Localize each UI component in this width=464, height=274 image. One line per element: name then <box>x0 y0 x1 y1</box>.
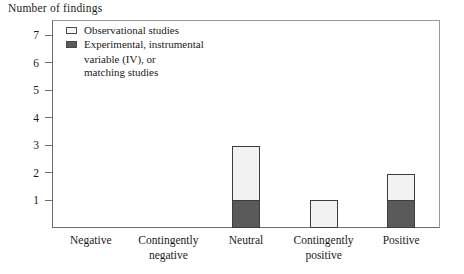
y-tick-mark <box>45 200 52 201</box>
bar-segment <box>387 200 415 228</box>
y-tick-label: 7 <box>0 26 39 44</box>
bar-segment <box>232 146 260 201</box>
bar-stack[interactable] <box>387 175 415 228</box>
bar-slot <box>285 20 363 228</box>
y-tick-mark <box>45 35 52 36</box>
bar-group <box>52 20 440 228</box>
bar-slot <box>362 20 440 228</box>
bar-segment <box>232 200 260 228</box>
x-axis-label: Positive <box>349 233 453 248</box>
bar-slot <box>207 20 285 228</box>
bar-slot <box>52 20 130 228</box>
bar-stack[interactable] <box>232 148 260 228</box>
y-axis-title: Number of findings <box>8 2 102 14</box>
y-tick-label: 4 <box>0 109 39 127</box>
bar-stack[interactable] <box>310 202 338 228</box>
chart-figure: Number of findings 1234567 Observational… <box>0 0 464 274</box>
y-tick-label: 1 <box>0 191 39 209</box>
bar-segment <box>310 200 338 228</box>
y-tick-label: 6 <box>0 54 39 72</box>
y-tick-mark <box>45 90 52 91</box>
y-tick-label: 2 <box>0 164 39 182</box>
y-tick-label: 5 <box>0 81 39 99</box>
x-axis-label-line: positive <box>272 248 376 263</box>
y-tick-mark <box>45 62 52 63</box>
x-axis-label-line: negative <box>116 248 220 263</box>
y-tick-mark <box>45 117 52 118</box>
y-tick-mark <box>45 172 52 173</box>
bar-segment <box>387 174 415 202</box>
y-tick-mark <box>45 145 52 146</box>
x-axis-label-line: Positive <box>349 233 453 248</box>
bar-slot <box>130 20 208 228</box>
y-tick-label: 3 <box>0 136 39 154</box>
